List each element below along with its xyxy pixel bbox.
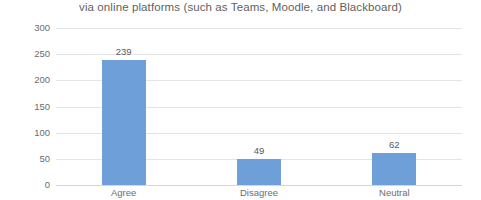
bar-value-label: 239 <box>94 47 154 57</box>
chart-title: via online platforms (such as Teams, Moo… <box>0 1 481 13</box>
bar-value-label: 49 <box>229 146 289 156</box>
bar <box>237 159 281 185</box>
y-tick-label: 200 <box>4 76 50 86</box>
y-tick-label: 250 <box>4 49 50 59</box>
gridline <box>56 185 462 186</box>
y-axis: 050100150200250300 <box>0 28 50 185</box>
bar <box>372 153 416 185</box>
plot-area: 2394962 <box>56 28 462 185</box>
bar-chart: via online platforms (such as Teams, Moo… <box>0 0 481 200</box>
bar <box>102 60 146 185</box>
y-tick-label: 150 <box>4 102 50 112</box>
y-tick-label: 0 <box>4 180 50 190</box>
y-tick-label: 300 <box>4 23 50 33</box>
y-tick-label: 50 <box>4 154 50 164</box>
x-axis: AgreeDisagreeNeutral <box>56 188 462 200</box>
bar-value-label: 62 <box>364 140 424 150</box>
x-tick-label: Agree <box>84 188 164 198</box>
gridline <box>56 28 462 29</box>
x-tick-label: Disagree <box>219 188 299 198</box>
x-tick-label: Neutral <box>354 188 434 198</box>
y-tick-label: 100 <box>4 128 50 138</box>
